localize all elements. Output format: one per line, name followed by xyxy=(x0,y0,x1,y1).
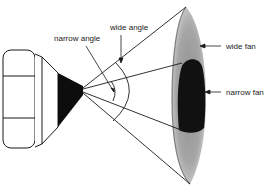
wide-fan-label: wide fan xyxy=(225,42,256,51)
narrow-angle-label: narrow angle xyxy=(54,34,101,43)
nozzle-tip xyxy=(58,73,83,127)
spray-fan-diagram: narrow angle wide angle wide fan narrow … xyxy=(0,0,270,191)
narrow-fan-label: narrow fan xyxy=(226,88,264,97)
wide-angle-label: wide angle xyxy=(109,23,149,32)
nozzle-body xyxy=(3,50,58,148)
narrow-fan-pattern xyxy=(178,59,206,133)
